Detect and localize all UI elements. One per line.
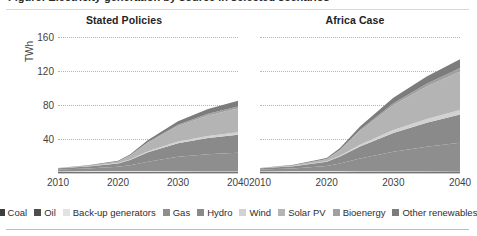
legend-item-label: Other renewables (402, 207, 477, 218)
legend-item[interactable]: Back-up generators (63, 207, 156, 218)
legend-item[interactable]: Solar PV (278, 207, 326, 218)
legend-item-label: Coal (8, 207, 28, 218)
legend-swatch-icon (278, 209, 285, 216)
legend-item-label: Solar PV (288, 207, 326, 218)
legend-swatch-icon (0, 209, 5, 216)
stacked-area-series (260, 28, 460, 173)
panel-stated-policies: Stated Policies 408012016020102020203020… (10, 14, 238, 204)
legend-item[interactable]: Wind (239, 207, 271, 218)
x-axis-tick-label: 2010 (47, 177, 69, 188)
x-axis-tick-label: 2020 (107, 177, 129, 188)
y-axis-tick-label: 160 (37, 31, 54, 42)
x-axis-tick-label: 2040 (449, 177, 471, 188)
x-axis-tick-label: 2030 (167, 177, 189, 188)
legend-item[interactable]: Coal (0, 207, 27, 218)
legend-item-label: Hydro (207, 207, 232, 218)
plot-area-africa-case: 2010202020302040 (260, 28, 460, 173)
legend-swatch-icon (163, 209, 170, 216)
legend-swatch-icon (34, 209, 41, 216)
legend-item-label: Bioenergy (343, 207, 386, 218)
y-axis-label: TWh (24, 41, 35, 62)
legend: CoalOilBack-up generatorsGasHydroWindSol… (0, 207, 475, 218)
legend-swatch-icon (333, 209, 340, 216)
legend-swatch-icon (197, 209, 204, 216)
legend-item[interactable]: Gas (163, 207, 190, 218)
header-divider (6, 9, 469, 10)
y-axis-tick-label: 80 (43, 99, 54, 110)
panel-title-africa-case: Africa Case (240, 14, 470, 26)
x-axis-tick-label: 2020 (316, 177, 338, 188)
legend-item-label: Oil (44, 207, 56, 218)
legend-swatch-icon (392, 209, 399, 216)
y-axis-tick-label: 120 (37, 65, 54, 76)
panel-africa-case: Africa Case 2010202020302040 (240, 14, 470, 204)
x-axis-line (260, 173, 460, 174)
legend-swatch-icon (63, 209, 70, 216)
x-axis-line (58, 173, 238, 174)
x-axis-tick-label: 2030 (382, 177, 404, 188)
footer-divider (6, 229, 469, 230)
legend-item-label: Wind (249, 207, 271, 218)
figure-title: Figure: Electricity generation by source… (8, 0, 330, 3)
stacked-area-series (58, 28, 238, 173)
legend-item-label: Gas (173, 207, 190, 218)
legend-item[interactable]: Bioenergy (333, 207, 386, 218)
y-axis-tick-label: 40 (43, 133, 54, 144)
figure-title-strip: Figure: Electricity generation by source… (0, 0, 475, 9)
legend-swatch-icon (239, 209, 246, 216)
plot-area-stated-policies: 40801201602010202020302040 (58, 28, 238, 173)
legend-item[interactable]: Oil (34, 207, 56, 218)
legend-item[interactable]: Hydro (197, 207, 232, 218)
x-axis-tick-label: 2010 (249, 177, 271, 188)
legend-item-label: Back-up generators (73, 207, 156, 218)
legend-item[interactable]: Other renewables (392, 207, 477, 218)
panel-title-stated-policies: Stated Policies (10, 14, 238, 26)
